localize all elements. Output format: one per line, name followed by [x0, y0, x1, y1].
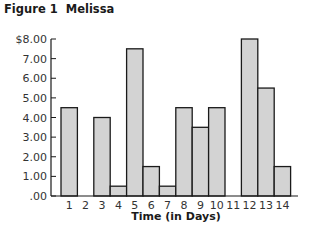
bar-day-7	[159, 186, 175, 196]
x-tick-label: 2	[82, 199, 89, 212]
bar-day-12	[241, 39, 257, 196]
x-tick-label: 11	[226, 199, 240, 212]
y-tick-label: .00	[30, 190, 48, 203]
y-axis: .001.002.003.004.005.006.007.00$8.00	[16, 33, 57, 203]
y-tick-label: 6.00	[23, 72, 48, 85]
y-tick-label: 4.00	[23, 112, 48, 125]
y-tick-label: 5.00	[23, 92, 48, 105]
bar-day-4	[110, 186, 126, 196]
bar-day-5	[127, 49, 143, 196]
bar-day-1	[61, 108, 77, 196]
x-tick-label: 4	[115, 199, 122, 212]
bar-day-13	[258, 88, 274, 196]
y-tick-label: 2.00	[23, 151, 48, 164]
x-tick-label: 14	[275, 199, 289, 212]
x-tick-label: 12	[243, 199, 257, 212]
x-tick-label: 13	[259, 199, 273, 212]
bar-day-10	[209, 108, 225, 196]
x-tick-label: 1	[66, 199, 73, 212]
bar-chart: .001.002.003.004.005.006.007.00$8.00 123…	[0, 0, 313, 235]
bar-day-9	[192, 127, 208, 196]
x-tick-label: 3	[99, 199, 106, 212]
x-axis-label: Time (in Days)	[131, 210, 220, 223]
bars	[61, 39, 291, 196]
y-tick-label: 7.00	[23, 53, 48, 66]
bar-day-6	[143, 167, 159, 196]
bar-day-8	[176, 108, 192, 196]
y-tick-label: 1.00	[23, 170, 48, 183]
y-tick-label: $8.00	[16, 33, 48, 46]
y-tick-label: 3.00	[23, 131, 48, 144]
bar-day-3	[94, 118, 110, 197]
bar-day-14	[274, 167, 290, 196]
